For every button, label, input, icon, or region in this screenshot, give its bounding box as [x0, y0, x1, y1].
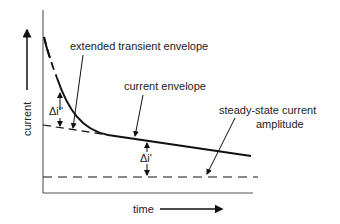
steady-state-label-line2: amplitude	[256, 118, 304, 130]
extended-transient-envelope-label: extended transient envelope	[70, 40, 208, 52]
current-envelope-curve	[44, 37, 50, 58]
delta-i-prime-label: Δi'	[140, 152, 152, 164]
extended-transient-dashed	[43, 125, 108, 135]
delta-i-double-prime-label: Δi''	[49, 105, 63, 117]
y-axis-label: current	[21, 102, 33, 136]
steady-state-label-line1: steady-state current	[219, 104, 316, 116]
current-envelope-diagram: current time Δi'' Δi' extended transient…	[0, 0, 340, 224]
leader-steady-state	[207, 118, 235, 174]
leader-current-envelope	[135, 95, 143, 136]
current-envelope-label: current envelope	[124, 80, 206, 92]
x-axis-label: time	[133, 203, 154, 215]
